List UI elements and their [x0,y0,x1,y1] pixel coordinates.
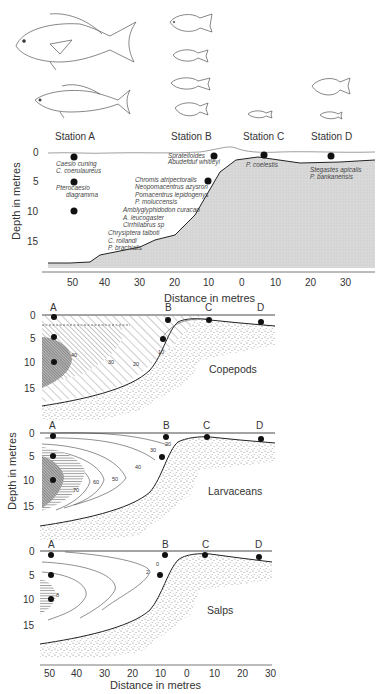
svg-text:30: 30 [265,668,277,679]
svg-text:50: 50 [44,668,56,679]
svg-text:A: A [49,420,56,431]
svg-text:20: 20 [305,277,317,288]
svg-text:B: B [163,420,170,431]
svg-text:0: 0 [184,668,190,679]
svg-text:D: D [256,420,263,431]
svg-text:D: D [255,539,262,550]
salps-panel: A B C D 0 5 10 15 0 2 8 Salps 50 40 30 2… [23,539,277,691]
y-tick-5: 5 [33,176,39,187]
svg-text:30: 30 [134,277,146,288]
svg-text:C. rollandi: C. rollandi [108,237,137,244]
svg-text:10: 10 [24,357,36,368]
svg-text:10: 10 [158,349,164,355]
svg-text:10: 10 [23,594,35,605]
x-ticks-top: 50 40 30 20 10 0 10 20 30 [67,277,352,288]
fish-icon-small-b2 [173,50,208,62]
svg-text:10: 10 [270,277,282,288]
svg-text:70: 70 [73,487,79,493]
station-b-label: Station B [171,131,212,142]
svg-text:20: 20 [165,441,171,447]
svg-text:A: A [50,302,57,313]
svg-text:15: 15 [23,620,35,631]
svg-text:5: 5 [29,451,35,462]
svg-text:C: C [202,539,209,550]
svg-text:P. brachialis: P. brachialis [108,244,143,251]
larvaceans-panel: A B C D 0 5 10 15 20 30 40 50 60 70 Larv… [6,420,275,540]
svg-text:0: 0 [29,428,35,439]
svg-text:2: 2 [146,569,149,575]
svg-text:Neopomacentrus azysron: Neopomacentrus azysron [135,183,208,191]
svg-text:diagramma: diagramma [66,191,98,199]
y-axis-label: Depth in metres [10,162,22,240]
fish-illustrations [16,14,350,119]
x-ticks-bottom: 50 40 30 20 10 0 10 20 30 [44,668,277,679]
svg-text:10: 10 [209,668,221,679]
fish-icon-small-d1 [312,78,350,95]
svg-text:40: 40 [71,352,77,358]
species-station-a: Caesio cuning C. coerulaureus Pterocaesi… [56,160,102,199]
svg-text:8: 8 [56,592,59,598]
salps-title: Salps [207,604,233,616]
svg-text:30: 30 [99,668,111,679]
figure: Station A Station B Station C Station D … [0,0,380,694]
svg-text:50: 50 [67,277,79,288]
svg-text:Amblyglyphidodon curacao: Amblyglyphidodon curacao [122,206,200,214]
svg-text:Pterocaesio: Pterocaesio [56,184,90,191]
svg-text:40: 40 [99,277,111,288]
svg-text:20: 20 [237,668,249,679]
svg-text:B: B [162,539,169,550]
svg-text:P. moluccensis: P. moluccensis [135,198,178,205]
fish-icon-large-a2 [35,85,130,118]
y-tick-10: 10 [27,206,39,217]
station-labels: Station A Station B Station C Station D [55,131,352,142]
svg-text:P. bankanensis: P. bankanensis [310,173,354,180]
svg-text:C: C [203,420,210,431]
svg-text:0: 0 [156,561,159,567]
svg-text:C: C [205,302,212,313]
svg-text:Cirrhilabrus sp: Cirrhilabrus sp [123,221,165,229]
svg-text:20: 20 [127,668,139,679]
svg-text:5: 5 [30,333,36,344]
copepods-panel: A B C D 0 5 10 15 40 30 20 10 Copepods [24,302,275,420]
svg-text:0: 0 [30,310,36,321]
svg-text:10: 10 [155,668,167,679]
reef-profile-panel: 0 5 10 15 Depth in metres 50 40 30 20 10… [10,147,375,304]
svg-text:A: A [48,539,55,550]
svg-text:Abudefduf whitleyi: Abudefduf whitleyi [167,158,220,166]
sea-surface [48,147,375,153]
y-tick-15: 15 [27,236,39,247]
svg-text:15: 15 [24,383,36,394]
fish-icon-tiny-d2 [320,112,342,119]
x-axis-label-bottom: Distance in metres [110,679,202,691]
svg-text:C. coerulaureus: C. coerulaureus [56,167,102,174]
svg-text:40: 40 [71,668,83,679]
fish-icon-small-b1 [170,14,212,32]
svg-text:15: 15 [23,501,35,512]
fish-icon-small-b3 [171,78,210,90]
fish-icon-tiny-c [248,111,272,118]
svg-text:5: 5 [29,570,35,581]
svg-text:50: 50 [112,476,118,482]
svg-text:20: 20 [169,277,181,288]
fish-icon-small-b4 [175,103,208,116]
svg-text:30: 30 [340,277,352,288]
station-a-label: Station A [55,131,95,142]
svg-text:20: 20 [133,361,139,367]
svg-text:60: 60 [93,479,99,485]
copepods-title: Copepods [209,363,257,375]
svg-text:30: 30 [150,447,156,453]
svg-text:30: 30 [108,359,114,365]
svg-text:10: 10 [203,277,215,288]
svg-text:0: 0 [239,277,245,288]
svg-text:10: 10 [23,475,35,486]
species-station-c: P. coelestis [246,161,279,168]
y-tick-0: 0 [33,147,39,158]
panels-y-axis-label: Depth in metres [6,432,18,510]
svg-text:Chrysiptera talboti: Chrysiptera talboti [108,229,160,237]
station-d-label: Station D [311,131,352,142]
svg-text:40: 40 [135,464,141,470]
svg-text:B: B [165,302,172,313]
station-c-label: Station C [243,131,284,142]
svg-text:D: D [257,302,264,313]
larvaceans-title: Larvaceans [208,485,262,497]
